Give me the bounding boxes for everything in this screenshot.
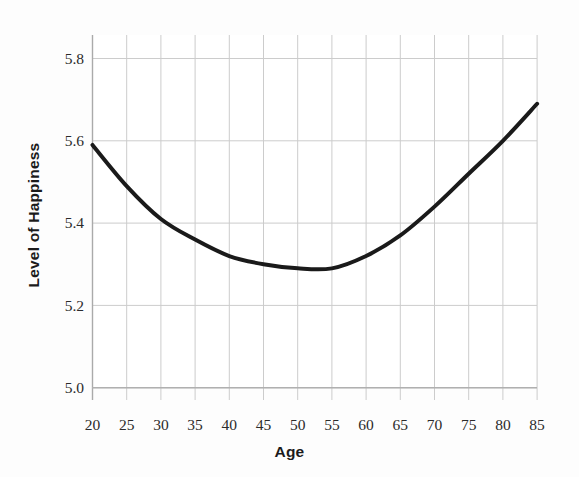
x-tick-60: 60 [358,416,374,433]
happiness-by-age-chart: 5.8 5.6 5.4 5.2 5.0 20 25 30 35 40 45 50… [0,0,579,477]
y-tick-5-6: 5.6 [65,132,85,149]
x-tick-85: 85 [529,416,545,433]
x-tick-50: 50 [290,416,306,433]
x-tick-75: 75 [461,416,477,433]
x-axis-label: Age [0,443,579,461]
y-tick-labels: 5.8 5.6 5.4 5.2 5.0 [65,50,85,396]
x-tick-20: 20 [85,416,101,433]
plot-background [92,35,537,387]
y-tick-5-2: 5.2 [65,297,84,314]
chart-figure: 5.8 5.6 5.4 5.2 5.0 20 25 30 35 40 45 50… [0,0,579,477]
x-tick-70: 70 [427,416,443,433]
x-tick-40: 40 [222,416,238,433]
x-tick-45: 45 [256,416,272,433]
y-tick-5-0: 5.0 [65,379,85,396]
x-tick-65: 65 [393,416,409,433]
x-tick-labels: 20 25 30 35 40 45 50 55 60 65 70 75 80 8… [85,416,545,433]
y-tick-5-8: 5.8 [65,50,85,67]
x-tick-35: 35 [187,416,203,433]
y-tick-5-4: 5.4 [65,214,85,231]
x-tick-25: 25 [119,416,135,433]
x-tick-30: 30 [153,416,169,433]
x-tick-55: 55 [324,416,340,433]
x-tick-80: 80 [495,416,511,433]
